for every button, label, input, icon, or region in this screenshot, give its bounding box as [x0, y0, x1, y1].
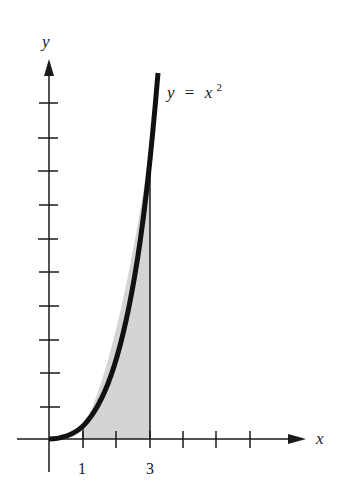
shaded-area-region [83, 150, 150, 439]
y-axis-label: y [40, 32, 50, 51]
function-label: y = x 2 [165, 81, 222, 102]
x-axis-arrow-icon [288, 434, 306, 444]
x-axis-label: x [315, 429, 324, 448]
y-axis-arrow-icon [44, 59, 54, 76]
parabola-area-diagram: y x y = x 2 1 3 [0, 0, 346, 495]
x-tick-label-3: 3 [146, 460, 154, 477]
x-tick-label-1: 1 [78, 460, 86, 477]
